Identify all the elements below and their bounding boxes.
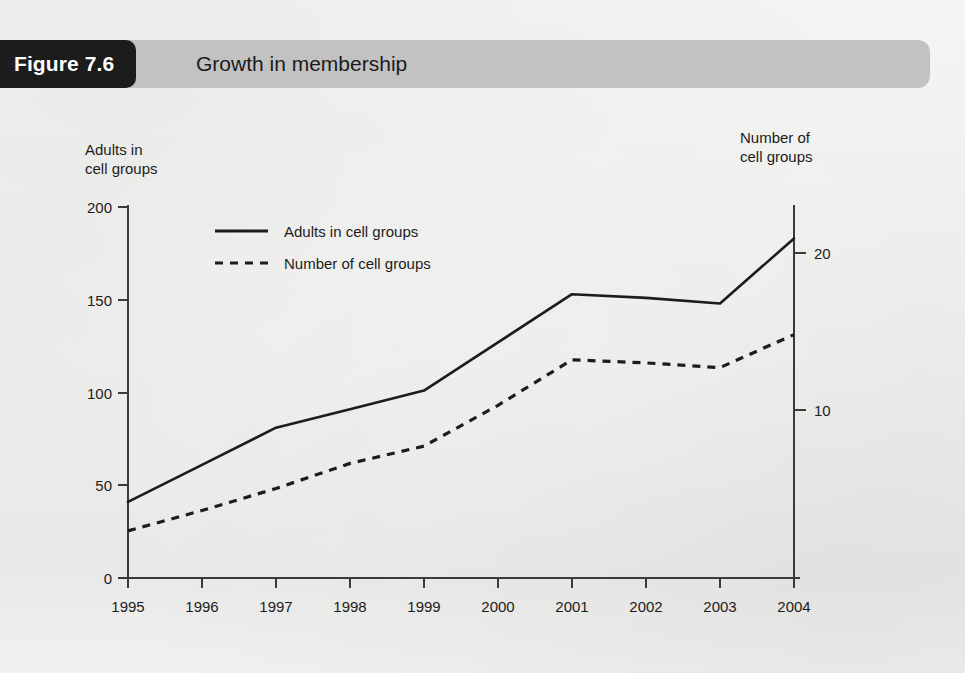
ytick-label-50: 50 bbox=[95, 477, 112, 494]
xtick-label-2003: 2003 bbox=[703, 598, 736, 615]
xtick-label-1999: 1999 bbox=[407, 598, 440, 615]
figure-header-band bbox=[0, 40, 930, 88]
xtick-label-1998: 1998 bbox=[333, 598, 366, 615]
y2tick-label-10: 10 bbox=[814, 402, 831, 419]
ytick-label-200: 200 bbox=[87, 199, 112, 216]
figure-tag-label: Figure 7.6 bbox=[14, 52, 114, 76]
series-line-groups bbox=[128, 335, 794, 531]
chart: Adults in cell groups Number of cell gro… bbox=[0, 98, 965, 643]
chart-canvas bbox=[0, 98, 965, 643]
ytick-label-150: 150 bbox=[87, 292, 112, 309]
right-axis-ticks bbox=[794, 253, 806, 410]
legend-label-adults: Adults in cell groups bbox=[284, 223, 418, 240]
series-line-adults bbox=[128, 239, 794, 502]
xtick-label-2004: 2004 bbox=[777, 598, 810, 615]
legend-label-groups: Number of cell groups bbox=[284, 255, 431, 272]
xtick-label-1997: 1997 bbox=[259, 598, 292, 615]
left-axis-ticks bbox=[118, 207, 128, 578]
figure-title: Growth in membership bbox=[196, 52, 407, 76]
xtick-label-2001: 2001 bbox=[555, 598, 588, 615]
xtick-label-1995: 1995 bbox=[111, 598, 144, 615]
xtick-label-2002: 2002 bbox=[629, 598, 662, 615]
y2tick-label-20: 20 bbox=[814, 245, 831, 262]
xtick-label-2000: 2000 bbox=[481, 598, 514, 615]
ytick-label-100: 100 bbox=[87, 385, 112, 402]
x-axis-ticks bbox=[128, 578, 794, 588]
xtick-label-1996: 1996 bbox=[185, 598, 218, 615]
ytick-label-0: 0 bbox=[104, 570, 112, 587]
